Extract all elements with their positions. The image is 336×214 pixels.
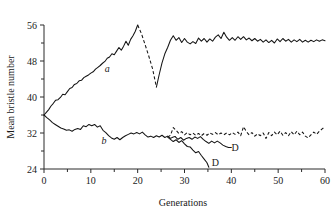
series-b-low-selection-solid-early — [44, 115, 175, 140]
discontinued-label-upper: D — [231, 142, 238, 153]
series-a-high-selection-solid-late — [156, 32, 325, 87]
x-tick-label: 50 — [273, 175, 283, 186]
tick-marks-group — [40, 25, 325, 173]
annotations-group: abDD — [101, 63, 238, 169]
x-axis-title-text: Generations — [159, 197, 207, 208]
y-tick-label: 24 — [27, 164, 37, 175]
tick-labels-group: 24324048560102030405060 — [27, 20, 330, 187]
x-tick-label: 0 — [42, 175, 47, 186]
y-tick-label: 56 — [27, 20, 37, 31]
discontinued-label-lower: D — [212, 157, 219, 168]
y-axis-title: Mean bristle number — [5, 55, 16, 139]
series-b-relaxed-dashed — [168, 127, 325, 139]
y-tick-label: 48 — [27, 56, 37, 67]
x-axis-title: Generations — [159, 197, 207, 208]
series-b-label: b — [101, 135, 106, 146]
x-tick-label: 60 — [320, 175, 330, 186]
axes-group — [44, 25, 325, 169]
x-tick-label: 40 — [226, 175, 236, 186]
y-tick-label: 40 — [27, 92, 37, 103]
x-tick-label: 20 — [133, 175, 143, 186]
y-tick-label: 32 — [27, 128, 37, 139]
series-a-relaxed-dashed — [138, 25, 157, 87]
figure-container: Mean bristle number Generations 24324048… — [0, 0, 336, 214]
series-b-branch-discontinued-lower — [168, 137, 209, 167]
series-a-label: a — [105, 63, 110, 74]
bristle-number-line-chart: Mean bristle number Generations 24324048… — [0, 0, 336, 214]
y-axis-title-text: Mean bristle number — [5, 55, 16, 139]
data-curves-group — [44, 25, 325, 167]
x-tick-label: 30 — [180, 175, 190, 186]
series-a-high-selection-solid-early — [44, 25, 138, 115]
x-tick-label: 10 — [86, 175, 96, 186]
